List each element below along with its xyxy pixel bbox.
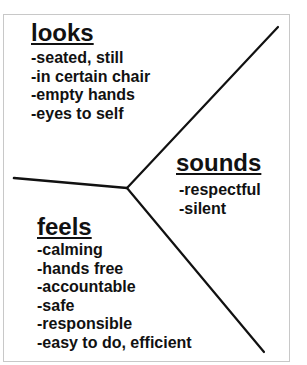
list-item: -easy to do, efficient [37,334,192,353]
list-sounds: -respectful -silent [176,181,261,218]
heading-looks: looks [31,20,150,46]
list-item: -calming [37,241,192,260]
list-item: -empty hands [31,86,150,105]
list-item: -eyes to self [31,105,150,124]
list-item: -safe [37,297,192,316]
heading-sounds: sounds [176,150,261,176]
list-item: -in certain chair [31,68,150,87]
section-feels: feels -calming -hands free -accountable … [37,214,192,352]
section-sounds: sounds -respectful -silent [176,150,261,218]
list-feels: -calming -hands free -accountable -safe … [37,241,192,352]
list-item: -accountable [37,278,192,297]
heading-feels: feels [37,214,192,240]
list-item: -seated, still [31,49,150,68]
list-item: -hands free [37,260,192,279]
list-item: -respectful [179,181,261,200]
list-looks: -seated, still -in certain chair -empty … [31,49,150,123]
section-looks: looks -seated, still -in certain chair -… [31,20,150,123]
divider-line-left [14,178,127,188]
list-item: -responsible [37,315,192,334]
